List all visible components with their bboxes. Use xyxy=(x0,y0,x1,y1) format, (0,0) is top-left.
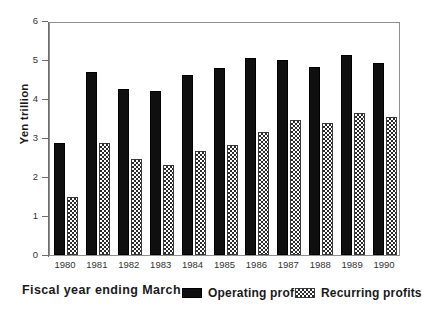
bar-operating-profits xyxy=(182,75,193,255)
bar-recurring-profits xyxy=(386,117,397,255)
bar-group xyxy=(86,23,110,255)
bar-operating-profits xyxy=(86,72,97,255)
x-tick-label: 1990 xyxy=(364,259,404,270)
bar-group xyxy=(277,23,301,255)
y-tick-mark xyxy=(42,99,48,100)
bars-container xyxy=(50,23,399,255)
bar-operating-profits xyxy=(277,60,288,255)
legend-entry-recurring: Recurring profits xyxy=(295,283,422,298)
bar-group xyxy=(341,23,365,255)
bar-group xyxy=(182,23,206,255)
y-tick-label: 4 xyxy=(0,93,38,104)
y-tick-mark xyxy=(42,216,48,217)
bar-recurring-profits xyxy=(67,197,78,255)
bar-recurring-profits xyxy=(227,145,238,255)
bar-operating-profits xyxy=(214,68,225,255)
bar-group xyxy=(309,23,333,255)
caption-row: Fiscal year ending March Operating profi… xyxy=(0,281,417,303)
x-axis-ticks: 1980198119821983198419851986198719881989… xyxy=(49,259,400,275)
legend-entry-operating: Operating profits xyxy=(182,283,309,298)
y-tick-mark xyxy=(42,177,48,178)
y-tick-label: 6 xyxy=(0,15,38,26)
y-tick-label: 5 xyxy=(0,54,38,65)
bar-operating-profits xyxy=(245,58,256,255)
bar-group xyxy=(245,23,269,255)
bar-group xyxy=(214,23,238,255)
plot-area xyxy=(49,22,400,256)
bar-recurring-profits xyxy=(290,120,301,255)
bar-group xyxy=(54,23,78,255)
bar-group xyxy=(373,23,397,255)
bar-recurring-profits xyxy=(322,123,333,255)
bar-operating-profits xyxy=(341,55,352,255)
y-tick-mark xyxy=(42,255,48,256)
y-tick-label: 1 xyxy=(0,210,38,221)
cross-hatch-swatch-icon xyxy=(295,288,315,298)
bar-recurring-profits xyxy=(163,165,174,255)
bar-group xyxy=(118,23,142,255)
y-axis-title: Yen trillion xyxy=(18,54,30,174)
bar-operating-profits xyxy=(54,143,65,255)
bar-operating-profits xyxy=(150,91,161,255)
y-tick-label: 3 xyxy=(0,132,38,143)
bar-recurring-profits xyxy=(99,143,110,255)
legend-label-operating: Operating profits xyxy=(208,286,309,300)
y-tick-mark xyxy=(42,60,48,61)
y-tick-label: 0 xyxy=(0,249,38,260)
bar-operating-profits xyxy=(373,63,384,255)
bar-recurring-profits xyxy=(258,132,269,255)
y-tick-label: 2 xyxy=(0,171,38,182)
bar-operating-profits xyxy=(309,67,320,255)
bar-operating-profits xyxy=(118,89,129,255)
solid-black-swatch-icon xyxy=(182,288,202,298)
bar-recurring-profits xyxy=(131,159,142,255)
bar-group xyxy=(150,23,174,255)
y-tick-mark xyxy=(42,138,48,139)
x-axis-title: Fiscal year ending March xyxy=(22,283,181,297)
bar-recurring-profits xyxy=(354,113,365,255)
legend-label-recurring: Recurring profits xyxy=(321,286,422,300)
bar-recurring-profits xyxy=(195,151,206,255)
y-tick-mark xyxy=(42,21,48,22)
